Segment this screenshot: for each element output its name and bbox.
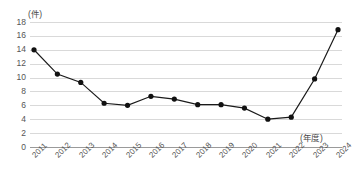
data-point xyxy=(31,47,36,52)
y-axis-tick-labels: 181614121086420 xyxy=(4,22,26,147)
y-tick-label: 16 xyxy=(6,31,26,40)
data-point xyxy=(78,80,83,85)
y-tick-label: 0 xyxy=(6,143,26,152)
data-series-line xyxy=(30,22,342,147)
data-point xyxy=(335,27,340,32)
data-point xyxy=(55,71,60,76)
data-point xyxy=(195,102,200,107)
data-point xyxy=(102,101,107,106)
y-tick-label: 4 xyxy=(6,115,26,124)
plot-area xyxy=(30,22,342,147)
data-point xyxy=(172,96,177,101)
data-point xyxy=(312,76,317,81)
y-tick-label: 18 xyxy=(6,18,26,27)
series-polyline xyxy=(34,30,338,120)
y-tick-label: 14 xyxy=(6,45,26,54)
data-point xyxy=(289,115,294,120)
data-point xyxy=(125,103,130,108)
y-tick-label: 6 xyxy=(6,101,26,110)
data-point xyxy=(242,106,247,111)
y-axis-unit-label: (件) xyxy=(28,7,42,19)
series-markers xyxy=(31,27,340,122)
y-tick-label: 10 xyxy=(6,73,26,82)
data-point xyxy=(218,102,223,107)
y-tick-label: 8 xyxy=(6,87,26,96)
data-point xyxy=(148,94,153,99)
x-axis-tick-labels: 2011201220132014201520162017201820192020… xyxy=(30,150,342,192)
y-tick-label: 2 xyxy=(6,129,26,138)
data-point xyxy=(265,117,270,122)
y-tick-label: 12 xyxy=(6,59,26,68)
